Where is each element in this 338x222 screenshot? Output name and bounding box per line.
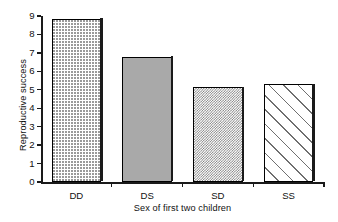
- y-axis-tick-mark: [37, 181, 41, 182]
- y-axis-tick-label: 8: [29, 30, 34, 40]
- y-axis-tick: 8: [37, 34, 41, 35]
- y-axis-tick-label: 6: [29, 67, 34, 77]
- y-axis-tick-label: 9: [29, 11, 34, 21]
- x-axis-tick-label: DD: [41, 191, 112, 201]
- y-axis-tick-label: 7: [29, 48, 34, 58]
- y-axis-tick-label: 4: [29, 103, 34, 113]
- x-axis-tick-label: SD: [183, 191, 254, 201]
- bar: [264, 84, 314, 182]
- x-axis-tick-mark: [111, 182, 112, 187]
- bar-chart-figure: Reproductive success 0123456789 DDDSSDSS…: [0, 0, 338, 222]
- x-axis-tick-mark: [182, 182, 183, 187]
- x-axis-title: Sex of first two children: [41, 203, 324, 213]
- y-axis-tick: 9: [37, 15, 41, 16]
- y-axis-tick: 4: [37, 108, 41, 109]
- x-axis-tick-label: DS: [112, 191, 183, 201]
- x-axis-tick-mark: [253, 182, 254, 187]
- y-axis-tick-mark: [37, 34, 41, 35]
- y-axis-tick-mark: [37, 144, 41, 145]
- y-axis-tick-label: 5: [29, 85, 34, 95]
- y-axis-spine: [41, 16, 43, 182]
- y-axis-tick-mark: [37, 15, 41, 16]
- y-axis-tick-mark: [37, 163, 41, 164]
- y-axis-tick: 6: [37, 71, 41, 72]
- x-axis-tick-mark: [323, 182, 324, 187]
- y-axis-tick-mark: [37, 126, 41, 127]
- y-axis-tick: 5: [37, 89, 41, 90]
- y-axis-tick: 3: [37, 126, 41, 127]
- y-axis-tick-mark: [37, 89, 41, 90]
- bar: [122, 57, 172, 182]
- y-axis-tick-label: 3: [29, 122, 34, 132]
- y-axis-tick: 7: [37, 52, 41, 53]
- x-axis-tick-label: SS: [253, 191, 324, 201]
- y-axis-tick-label: 0: [29, 177, 34, 187]
- bar: [52, 19, 102, 182]
- y-axis-tick: 2: [37, 144, 41, 145]
- y-axis-tick-mark: [37, 71, 41, 72]
- bar: [193, 87, 243, 182]
- y-axis-tick-label: 2: [29, 140, 34, 150]
- y-axis-tick-mark: [37, 52, 41, 53]
- y-axis-tick: 0: [37, 181, 41, 182]
- y-axis-tick: 1: [37, 163, 41, 164]
- plot-area: 0123456789 DDDSSDSS: [41, 16, 324, 182]
- y-axis-tick-label: 1: [29, 159, 34, 169]
- y-axis-tick-mark: [37, 108, 41, 109]
